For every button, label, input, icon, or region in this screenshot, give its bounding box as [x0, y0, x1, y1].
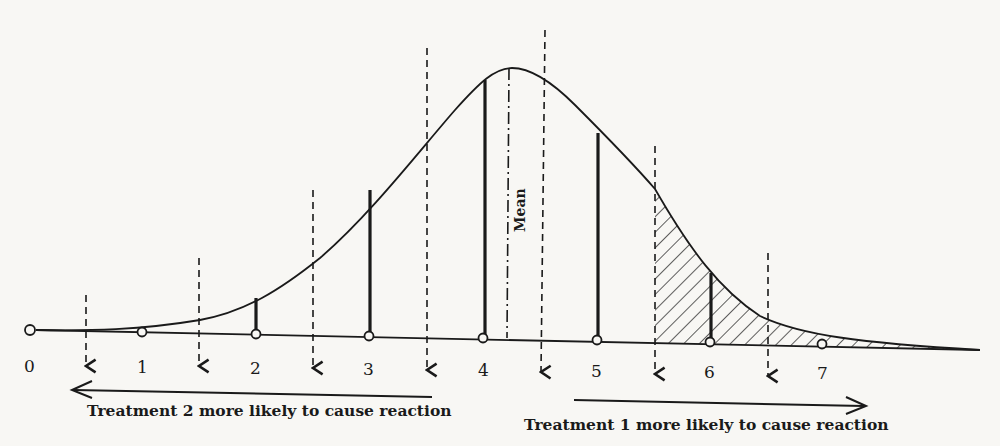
- left-caption: Treatment 2 more likely to cause reactio…: [87, 401, 452, 420]
- mean-line: [507, 68, 509, 338]
- cutpoint-arrow-4-5: [541, 30, 545, 372]
- tick-label-4: 4: [478, 360, 489, 380]
- tick-label-7: 7: [817, 363, 828, 383]
- point-1: [138, 328, 147, 337]
- tick-label-5: 5: [591, 361, 602, 381]
- right-caption: Treatment 1 more likely to cause reactio…: [524, 415, 889, 434]
- point-6: [706, 338, 715, 347]
- tick-label-0: 0: [24, 356, 35, 376]
- left-direction-arrow: [72, 381, 432, 398]
- point-0: [25, 325, 35, 335]
- point-5: [593, 336, 602, 345]
- point-4: [479, 334, 488, 343]
- right-direction-arrow: [574, 397, 866, 414]
- tick-label-6: 6: [704, 362, 715, 382]
- tick-label-1: 1: [137, 357, 148, 377]
- shaded-tail-region: [655, 189, 980, 350]
- tick-labels: 0 1 2 3 4 5 6 7: [24, 356, 828, 383]
- point-7: [818, 340, 827, 349]
- tick-label-2: 2: [250, 358, 261, 378]
- mean-label: Mean: [512, 188, 528, 232]
- point-3: [365, 332, 374, 341]
- tick-label-3: 3: [363, 359, 374, 379]
- integer-stems: [256, 80, 711, 342]
- point-2: [252, 330, 261, 339]
- distribution-diagram: Mean 0 1 2 3 4 5 6 7 Treatment 2 more li…: [0, 0, 1000, 446]
